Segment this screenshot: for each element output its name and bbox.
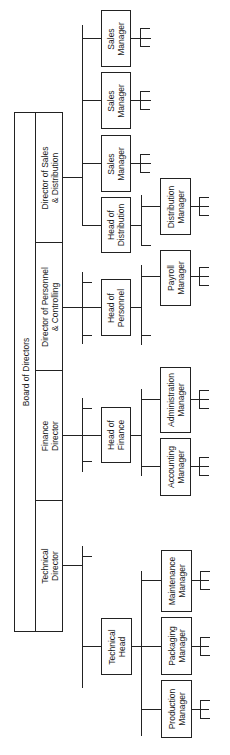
connector (82, 307, 101, 308)
head-distribution-label: Head of Distribution (106, 204, 126, 247)
connector (200, 700, 210, 701)
connector (131, 100, 151, 101)
head-of-distribution-box: Head of Distribution (101, 197, 131, 253)
connector (199, 215, 209, 216)
head-personnel-label: Head of Personnel (106, 288, 126, 326)
director-sales-distribution: Director of Sales & Distribution (36, 113, 63, 242)
connector (140, 109, 150, 110)
director-technical: Technical Director (36, 501, 63, 631)
connector (82, 335, 92, 336)
connector (82, 435, 101, 436)
packaging-manager-box: Packaging Manager (161, 617, 192, 675)
accounting-manager-label: Accounting Manager (166, 446, 186, 488)
connector (140, 28, 141, 46)
connector (140, 91, 150, 92)
connector (199, 475, 209, 476)
connector (141, 389, 142, 476)
technical-head-label: Technical Head (107, 629, 127, 664)
packaging-manager-label: Packaging Manager (167, 626, 187, 666)
connector (141, 646, 161, 647)
director-technical-label: Technical Director (40, 548, 60, 583)
connector (200, 655, 210, 656)
connector (200, 571, 210, 572)
sales-manager-box-3: Sales Manager (101, 135, 131, 192)
connector (63, 307, 82, 308)
connector (82, 38, 101, 39)
connector (141, 709, 161, 710)
connector (82, 646, 101, 647)
connector (131, 163, 151, 164)
head-of-finance-box: Head of Finance (101, 407, 131, 463)
connector (199, 197, 209, 198)
connector (82, 461, 92, 462)
connector (199, 457, 209, 458)
connector (140, 154, 141, 172)
connector (200, 571, 201, 589)
connector (199, 197, 200, 215)
connector (140, 154, 150, 155)
connector (131, 435, 141, 436)
connector (191, 466, 209, 467)
administration-manager-label: Administration Manager (166, 373, 186, 427)
connector (82, 408, 92, 409)
connector (131, 38, 151, 39)
connector (141, 195, 142, 245)
director-finance: Finance Director (36, 371, 63, 500)
sales-manager-box-2: Sales Manager (101, 72, 131, 129)
director-personnel-label: Director of Personnel & Controlling (40, 267, 60, 347)
connector (200, 637, 210, 638)
connector (200, 589, 210, 590)
connector (140, 46, 150, 47)
connector (82, 546, 83, 688)
maintenance-manager-box: Maintenance Manager (161, 550, 192, 612)
connector (141, 206, 160, 207)
connector (82, 163, 101, 164)
administration-manager-box: Administration Manager (160, 367, 191, 433)
connector (140, 91, 141, 109)
sales-manager-label: Sales Manager (106, 147, 126, 181)
connector (82, 225, 101, 226)
connector (82, 100, 101, 101)
connector (63, 435, 82, 436)
connector (199, 267, 200, 285)
connector (141, 466, 160, 467)
connector (141, 265, 142, 345)
connector (141, 580, 161, 581)
connector (82, 556, 92, 557)
connector (199, 408, 209, 409)
payroll-manager-label: Payroll Manager (166, 261, 186, 295)
production-manager-box: Production Manager (161, 680, 192, 738)
director-personnel-controlling: Director of Personnel & Controlling (36, 243, 63, 370)
connector (141, 571, 142, 736)
maintenance-manager-label: Maintenance Manager (167, 557, 187, 606)
connector (82, 282, 92, 283)
connector (199, 457, 200, 475)
head-of-personnel-box: Head of Personnel (101, 279, 131, 336)
connector (63, 565, 82, 566)
connector (200, 700, 201, 718)
connector (191, 399, 209, 400)
connector (131, 225, 141, 226)
director-finance-label: Finance Director (40, 420, 60, 450)
director-sales-label: Director of Sales & Distribution (40, 146, 60, 209)
sales-manager-label: Sales Manager (106, 84, 126, 118)
connector (199, 390, 209, 391)
payroll-manager-box: Payroll Manager (160, 250, 191, 306)
connector (141, 276, 160, 277)
connector (191, 276, 209, 277)
distribution-manager-box: Distribution Manager (160, 178, 191, 235)
connector (191, 206, 209, 207)
connector (131, 307, 141, 308)
distribution-manager-label: Distribution Manager (166, 185, 186, 228)
connector (132, 646, 141, 647)
board-label: Board of Directors (21, 338, 31, 407)
technical-head-box: Technical Head (101, 618, 132, 675)
connector (140, 28, 150, 29)
connector (199, 267, 209, 268)
connector (141, 399, 160, 400)
production-manager-label: Production Manager (167, 689, 187, 730)
connector (141, 245, 151, 246)
sales-manager-label: Sales Manager (106, 22, 126, 56)
connector (199, 390, 200, 408)
connector (199, 285, 209, 286)
